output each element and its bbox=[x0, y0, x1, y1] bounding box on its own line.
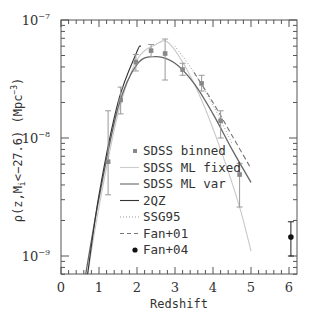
x-tick-label: 2 bbox=[133, 280, 141, 295]
y-tick-label: 10−7 bbox=[22, 12, 50, 28]
y-tick-label: 10−9 bbox=[22, 248, 50, 264]
legend-label: SDSS binned bbox=[143, 143, 226, 158]
legend-label: SDSS ML var bbox=[143, 176, 226, 191]
data-point-fan04 bbox=[288, 234, 294, 240]
legend-item: SDSS ML fixed bbox=[120, 160, 241, 175]
y-tick-labels: 10−710−810−9 bbox=[22, 12, 50, 264]
legend-item: Fan+01 bbox=[120, 226, 188, 241]
x-tick-label: 1 bbox=[95, 280, 103, 295]
y-axis-label: ρ(z,Mi<−27.6) (Mpc−3) bbox=[10, 78, 27, 223]
chart: 0123456 10−710−810−9 Redshift ρ(z,Mi<−27… bbox=[0, 0, 312, 317]
x-tick-label: 6 bbox=[285, 280, 293, 295]
x-tick-label: 4 bbox=[209, 280, 217, 295]
data-point-sdss-binned bbox=[134, 60, 139, 65]
data-point-sdss-binned bbox=[180, 67, 185, 72]
legend-item: SDSS ML var bbox=[120, 176, 226, 191]
legend-label: SSG95 bbox=[143, 209, 181, 224]
legend-label: SDSS ML fixed bbox=[143, 160, 241, 175]
legend-item: 2QZ bbox=[120, 193, 166, 208]
data-point-sdss-binned bbox=[199, 81, 204, 86]
data-point-sdss-binned bbox=[149, 48, 154, 53]
x-tick-label: 0 bbox=[57, 280, 65, 295]
legend-label: Fan+01 bbox=[143, 226, 188, 241]
curve-2qz bbox=[88, 46, 141, 275]
x-tick-label: 3 bbox=[171, 280, 179, 295]
circle-marker-icon bbox=[132, 247, 137, 252]
legend: SDSS binnedSDSS ML fixedSDSS ML var2QZSS… bbox=[120, 143, 241, 257]
square-marker-icon bbox=[133, 149, 137, 153]
data-point-sdss-binned bbox=[106, 159, 111, 164]
data-point-sdss-binned bbox=[218, 118, 223, 123]
x-axis-label: Redshift bbox=[150, 297, 208, 311]
data-point-sdss-binned bbox=[118, 98, 123, 103]
x-tick-labels: 0123456 bbox=[57, 280, 293, 295]
x-tick-label: 5 bbox=[247, 280, 255, 295]
svg-text:ρ(z,Mi<−27.6) (Mpc−3): ρ(z,Mi<−27.6) (Mpc−3) bbox=[10, 78, 27, 223]
legend-item: SDSS binned bbox=[133, 143, 226, 158]
legend-label: 2QZ bbox=[143, 193, 166, 208]
legend-item: SSG95 bbox=[120, 209, 181, 224]
y-tick-label: 10−8 bbox=[22, 130, 50, 146]
data-point-sdss-binned bbox=[163, 51, 168, 56]
curve-ssg95 bbox=[175, 46, 232, 143]
legend-item: Fan+04 bbox=[132, 242, 188, 257]
legend-label: Fan+04 bbox=[143, 242, 188, 257]
